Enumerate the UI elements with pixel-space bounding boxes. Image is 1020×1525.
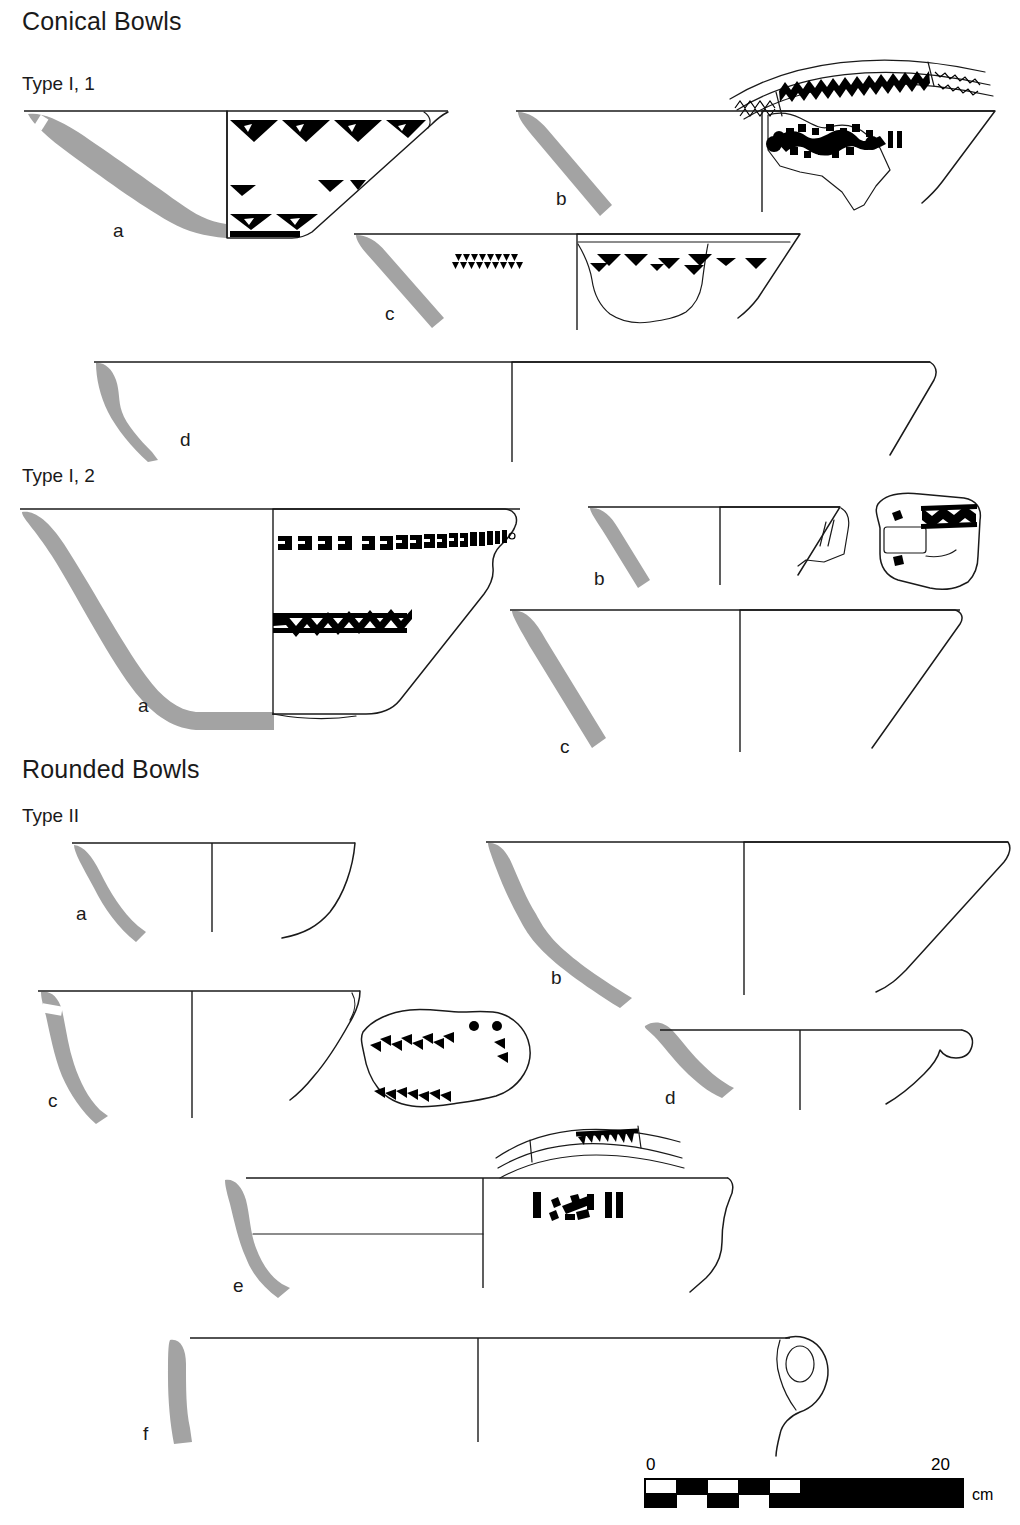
- vessel-exterior-outline: [577, 234, 800, 318]
- decoration-impressed-motif: [533, 1192, 623, 1221]
- item-label-i1-d: d: [180, 429, 191, 450]
- scale-start-label: 0: [646, 1455, 655, 1474]
- item-label-i1-a: a: [113, 220, 124, 241]
- item-label-i2-a: a: [138, 695, 149, 716]
- loop-handle: [776, 1336, 828, 1456]
- sherd-rectangular: [876, 493, 980, 589]
- handle-lug-detail: [820, 520, 834, 546]
- vessel-exterior-outline: [740, 610, 962, 748]
- item-label-i2-c: c: [560, 736, 570, 757]
- vessel-profile-section: [96, 363, 158, 462]
- type-heading-ii: Type II: [22, 805, 79, 826]
- item-label-ii-c: c: [48, 1090, 58, 1111]
- vessel-exterior-outline: [762, 111, 995, 203]
- vessel-profile-section: [356, 235, 444, 328]
- type-heading-i-1: Type I, 1: [22, 73, 95, 94]
- sherd-arc-small: [496, 1126, 684, 1178]
- vessel-type-ii-e: e: [225, 1126, 733, 1298]
- sherd-arc-band: [730, 60, 993, 119]
- decoration-lower-band: [230, 214, 318, 237]
- vessel-profile-section: [74, 845, 146, 942]
- decoration-arc-triangles: [576, 1128, 638, 1145]
- vessel-type-i-2-c: c: [510, 610, 962, 757]
- vessel-profile-section: [512, 611, 606, 748]
- pottery-typology-figure: Conical Bowls Type I, 1: [0, 0, 1020, 1525]
- decoration-small-triangle-band: [452, 254, 523, 269]
- vessel-type-i-1-a: a: [24, 111, 448, 241]
- vessel-type-ii-b: b: [486, 842, 1010, 1008]
- vessel-exterior-outline: [744, 842, 1010, 992]
- vessel-exterior-outline: [720, 507, 840, 575]
- vessel-profile-section: [168, 1340, 192, 1444]
- item-label-i1-c: c: [385, 303, 395, 324]
- decoration-scattered-triangles: [230, 180, 366, 196]
- type-heading-i-2: Type I, 2: [22, 465, 95, 486]
- item-label-i1-b: b: [556, 188, 567, 209]
- item-label-ii-d: d: [665, 1087, 676, 1108]
- decoration-triangle-row: [590, 254, 767, 275]
- vessel-profile-section: [645, 1023, 734, 1098]
- handle-lug: [798, 508, 849, 566]
- section-heading-rounded: Rounded Bowls: [22, 755, 200, 783]
- item-label-i2-b: b: [594, 568, 605, 589]
- vessel-type-i-2-b: b: [588, 493, 980, 589]
- vessel-type-i-1-d: d: [94, 362, 936, 462]
- vessel-type-i-2-a: a: [20, 509, 520, 730]
- vessel-type-ii-d: d: [645, 1023, 973, 1110]
- sherd-dotted-triangles: [361, 1009, 530, 1106]
- vessel-type-i-1-b: b: [516, 60, 995, 216]
- decoration-zigzag-band: [273, 609, 412, 637]
- vessel-exterior-outline: [886, 1030, 973, 1104]
- vessel-type-ii-f: f: [143, 1336, 828, 1456]
- vessel-exterior-outline: [512, 362, 936, 455]
- item-label-ii-a: a: [76, 903, 87, 924]
- scale-unit-label: cm: [972, 1486, 993, 1503]
- scale-bar: 0 20 cm: [644, 1455, 993, 1508]
- vessel-exterior-outline: [690, 1178, 733, 1292]
- scale-end-label: 20: [931, 1455, 950, 1474]
- vessel-exterior-outline: [290, 991, 360, 1100]
- vessel-type-ii-a: a: [72, 843, 355, 942]
- section-heading-conical: Conical Bowls: [22, 7, 182, 35]
- vessel-type-i-1-c: c: [354, 234, 800, 330]
- item-label-ii-b: b: [551, 967, 562, 988]
- decoration-triangle-frieze: [230, 120, 426, 142]
- vessel-type-ii-c: c: [38, 991, 530, 1124]
- vessel-profile-section: [28, 114, 226, 238]
- decoration-hook-row: [278, 530, 515, 550]
- item-label-ii-f: f: [143, 1423, 149, 1444]
- vessel-exterior-outline: [282, 843, 355, 938]
- item-label-ii-e: e: [233, 1275, 244, 1296]
- figure-canvas: Conical Bowls Type I, 1: [0, 0, 1020, 1525]
